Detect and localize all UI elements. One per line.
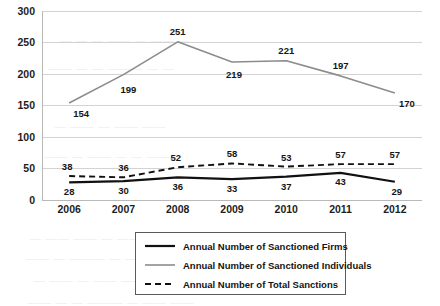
y-axis-tick-label: 300 [17, 5, 35, 17]
data-point-label: 36 [118, 162, 129, 173]
data-point-label: 33 [227, 183, 238, 194]
data-point-label: 219 [226, 69, 242, 80]
y-axis-tick-label: 0 [29, 194, 35, 206]
data-point-label: 197 [333, 60, 349, 71]
y-axis-tick-label: 250 [17, 36, 35, 48]
legend[interactable]: Annual Number of Sanctioned FirmsAnnual … [135, 232, 371, 294]
data-point-label: 58 [227, 148, 238, 159]
x-axis-tick-label: 2010 [275, 203, 299, 215]
gridlines [42, 11, 422, 200]
x-axis-tick-labels: 2006200720082009201020112012 [57, 203, 406, 215]
line-chart: 050100150200250300 200620072008200920102… [0, 0, 440, 306]
x-axis-tick-label: 2007 [112, 203, 136, 215]
x-axis-tick-label: 2008 [166, 203, 190, 215]
x-axis-tick-label: 2006 [57, 203, 81, 215]
x-axis-tick-label: 2012 [383, 203, 407, 215]
series-line-0 [69, 173, 395, 182]
data-point-label: 28 [64, 186, 75, 197]
data-point-label: 52 [170, 152, 181, 163]
data-point-label: 251 [170, 26, 187, 37]
legend-label-1[interactable]: Annual Number of Sanctioned Individuals [183, 260, 371, 271]
data-point-label: 199 [120, 84, 136, 95]
data-point-label: 57 [335, 149, 346, 160]
y-axis-tick-label: 200 [17, 68, 35, 80]
x-axis-tick-label: 2009 [220, 203, 244, 215]
data-point-label: 43 [335, 176, 346, 187]
y-axis-tick-labels: 050100150200250300 [17, 5, 35, 206]
data-point-label: 170 [399, 98, 415, 109]
data-point-label: 53 [281, 152, 292, 163]
y-axis-tick-label: 150 [17, 99, 35, 111]
data-point-label: 37 [281, 181, 292, 192]
data-point-labels: 2830363337432915419925121922119717038365… [62, 26, 415, 197]
y-axis-tick-label: 100 [17, 131, 35, 143]
x-axis-tick-label: 2011 [329, 203, 352, 215]
chart-container: — — — —— — —— ——— — — ——— — —— —— — —— —… [0, 0, 440, 306]
data-point-label: 154 [73, 108, 90, 119]
legend-label-2[interactable]: Annual Number of Total Sanctions [183, 279, 338, 290]
data-point-label: 29 [392, 186, 403, 197]
y-axis-tick-label: 50 [23, 162, 35, 174]
data-point-label: 38 [62, 161, 73, 172]
data-point-label: 221 [278, 45, 295, 56]
data-point-label: 57 [390, 149, 401, 160]
data-point-label: 36 [172, 181, 183, 192]
data-point-label: 30 [118, 185, 129, 196]
legend-label-0[interactable]: Annual Number of Sanctioned Firms [183, 241, 348, 252]
